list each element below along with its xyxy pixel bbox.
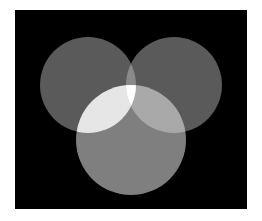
venn-diagram-canvas <box>0 0 262 221</box>
venn-diagram <box>0 0 262 221</box>
